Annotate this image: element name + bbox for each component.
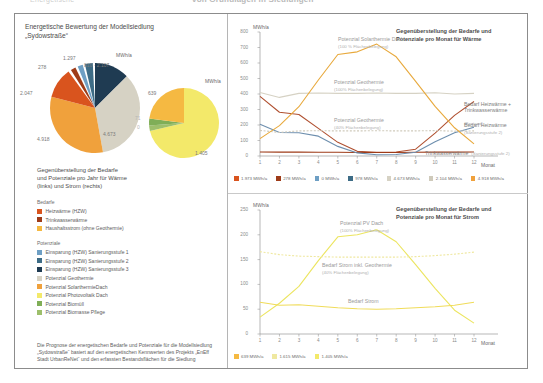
x-axis-tick: 1 xyxy=(255,160,265,165)
chart-legend-swatch-icon xyxy=(315,176,320,181)
chart-legend-swatch-icon xyxy=(276,176,281,181)
chart-legend-swatch-icon xyxy=(471,176,476,181)
x-axis-tick: 10 xyxy=(430,160,440,165)
y-axis-tick: 600 xyxy=(232,60,248,65)
chart-legend-swatch-icon xyxy=(272,354,277,359)
anno-bedarf-strom-geo: Bedarf Strom inkl. Geothermie (40% Fläch… xyxy=(322,262,392,276)
anno-pv-dach-text: Potenzial PV Dach xyxy=(340,220,383,226)
y-axis-tick: 500 xyxy=(232,76,248,81)
legend-item: Einsparung (HZW) Sanierungsstufe 2 xyxy=(37,257,212,264)
chart-waerme-xlabel: Monat xyxy=(481,162,495,168)
x-axis-tick: 9 xyxy=(411,338,421,343)
pie-waerme-unit: MWh/a xyxy=(116,52,132,58)
chart-legend-label: 2.104 MWh/a xyxy=(436,176,462,181)
chart-legend-label: 1.615 MWh/a xyxy=(279,354,305,359)
chart-waerme-legend: 1.973 MWh/a278 MWh/a0 MWh/a978 MWh/a4.67… xyxy=(234,176,504,181)
chart-legend-item: 4.918 MWh/a xyxy=(471,176,504,181)
chart-legend-item: 978 MWh/a xyxy=(348,176,377,181)
y-axis-tick: 800 xyxy=(232,29,248,34)
pie-chart-waerme xyxy=(45,58,145,158)
chart-legend-label: 639 MWh/a xyxy=(241,354,263,359)
x-axis-tick: 7 xyxy=(372,338,382,343)
chart-legend-item: 2.104 MWh/a xyxy=(429,176,462,181)
anno-bedarf-heizwaerme-text: Bedarf Heizwärme xyxy=(464,122,507,128)
chart-strom-ylabel: MWh/a xyxy=(253,202,269,208)
anno-bedarf-strom-geo-sub: (40% Flächenbelegung) xyxy=(322,270,369,275)
legend-item: Einsparung (HZW) Sanierungsstufe 1 xyxy=(37,249,212,256)
legend-item-label: Einsparung (HZW) Sanierungsstufe 2 xyxy=(46,258,129,264)
y-axis-tick: 0 xyxy=(232,331,248,336)
page-title: Energetische Bewertung der Modellsiedlun… xyxy=(25,23,215,40)
chart-strom-legend: 639 MWh/a1.615 MWh/a1.405 MWh/a xyxy=(234,354,348,359)
chart-legend-item: 1.973 MWh/a xyxy=(234,176,267,181)
legend-item: Trinkwasserwärme xyxy=(37,216,212,223)
pie-strom-label-3: 0 xyxy=(137,124,140,130)
anno-trinkwasserwaerme-sub: (Sanierungsstufe 2) xyxy=(471,151,509,156)
legend-swatch-icon xyxy=(37,284,42,289)
left-column: Energetische Bewertung der Modellsiedlun… xyxy=(15,14,228,368)
y-axis-tick: 200 xyxy=(232,232,248,237)
anno-geothermie-100-text: Potenzial Geothermie xyxy=(334,79,384,85)
y-axis-tick: 50 xyxy=(232,306,248,311)
chart-legend-swatch-icon xyxy=(234,354,239,359)
x-axis-tick: 2 xyxy=(274,160,284,165)
right-column: Gegenüberstellung der Bedarfe und Potenz… xyxy=(228,14,528,368)
anno-geothermie-40-text: Potenzial Geothermie xyxy=(334,117,384,123)
legend-item: Potenzial Geothermie xyxy=(37,274,212,281)
legend-swatch-icon xyxy=(37,301,42,306)
page-header-left: Energetische xyxy=(30,0,74,3)
chart-legend-label: 1.973 MWh/a xyxy=(241,176,267,181)
figure-panel: Energetische Bewertung der Modellsiedlun… xyxy=(14,13,528,369)
anno-bedarf-heizwaerme-sub: (Sanierungsstufe 2) xyxy=(464,130,502,135)
y-axis-tick: 100 xyxy=(232,281,248,286)
chart-legend-item: 639 MWh/a xyxy=(234,354,263,359)
legend-block: Bedarfe Heizwärme (HZW)TrinkwasserwärmeH… xyxy=(37,199,212,317)
chart-legend-swatch-icon xyxy=(234,176,239,181)
chart-strom: Gegenüberstellung der Bedarfe und Potenz… xyxy=(228,193,528,370)
pie-waerme-label-1: 810 · 2.107 xyxy=(84,62,109,68)
anno-pv-dach: Potenzial PV Dach (100% Flächenbelegung) xyxy=(340,220,389,234)
anno-bedarf-strom-text: Bedarf Strom xyxy=(348,298,379,304)
y-axis-tick: 400 xyxy=(232,91,248,96)
pie-strom-label-1: 1.405 xyxy=(195,150,208,156)
pie-strom-unit: MWh/a xyxy=(205,78,221,84)
x-axis-tick: 10 xyxy=(430,338,440,343)
x-axis-tick: 12 xyxy=(469,160,479,165)
pie-chart-strom xyxy=(145,84,223,162)
chart-legend-label: 1.405 MWh/a xyxy=(322,354,348,359)
pie-waerme-label-0: 1.297 xyxy=(63,55,76,61)
anno-geothermie-40-sub: (40% Flächenbelegung) xyxy=(334,125,381,130)
legend-item-label: Potenzial SolarthermieDach xyxy=(46,284,108,290)
footnote-text: Die Prognose der energetischen Bedarfe u… xyxy=(37,342,217,362)
page-header-right: von Grundlagen in Siedlungen xyxy=(192,0,314,4)
anno-solarthermie-dach-sub: (100 % Flächenbelegung) xyxy=(338,44,388,49)
chart-legend-item: 278 MWh/a xyxy=(276,176,305,181)
anno-geothermie-100-sub: (100% Flächenbelegung) xyxy=(334,87,383,92)
chart-legend-item: 0 MWh/a xyxy=(315,176,340,181)
legend-swatch-icon xyxy=(37,226,42,231)
chart-legend-swatch-icon xyxy=(315,354,320,359)
pie-waerme-label-2: 4.673 xyxy=(103,131,116,137)
anno-bedarf-heizwaerme: Bedarf Heizwärme (Sanierungsstufe 2) xyxy=(464,122,507,136)
x-axis-tick: 3 xyxy=(294,338,304,343)
x-axis-tick: 5 xyxy=(333,160,343,165)
legend-item-label: Potenzial Photovoltaik Dach xyxy=(46,292,108,298)
y-axis-tick: 100 xyxy=(232,138,248,143)
legend-item-label: Haushaltsstrom (ohne Geothermie) xyxy=(46,225,124,231)
chart-legend-swatch-icon xyxy=(387,176,392,181)
legend-item-label: Potenzial Biomasse Pflege xyxy=(46,309,105,315)
x-axis-tick: 11 xyxy=(450,338,460,343)
y-axis-tick: 250 xyxy=(232,207,248,212)
anno-bedarf-strom-geo-text: Bedarf Strom inkl. Geothermie xyxy=(322,262,392,268)
legend-bedarfe-list: Heizwärme (HZW)TrinkwasserwärmeHaushalts… xyxy=(37,208,212,232)
legend-swatch-icon xyxy=(37,217,42,222)
y-axis-tick: 300 xyxy=(232,107,248,112)
legend-swatch-icon xyxy=(37,310,42,315)
anno-trinkwasserwaerme: Trinkwasserwärme(Sanierungsstufe 2) xyxy=(425,150,510,158)
legend-potenziale-heading: Potenziale xyxy=(37,240,212,246)
anno-bedarf-strom: Bedarf Strom xyxy=(348,298,379,305)
figure-caption: Gegenüberstellung der Bedarfe und Potenz… xyxy=(37,166,197,190)
pie-waerme-label-5: 278 xyxy=(38,64,46,70)
legend-item: Potenzial Photovoltaik Dach xyxy=(37,292,212,299)
legend-swatch-icon xyxy=(37,276,42,281)
